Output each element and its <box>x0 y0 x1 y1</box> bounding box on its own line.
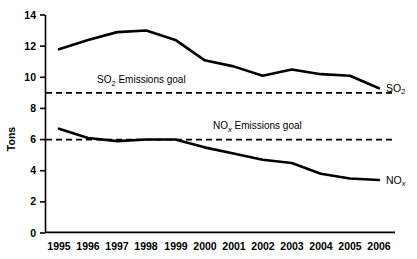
y-tick-label-4: 4 <box>30 164 36 176</box>
so2-goal-label-main: SO <box>97 74 112 85</box>
chart-canvas: 0 2 4 6 8 10 12 14 Tons 1995 1996 1997 1… <box>0 0 417 259</box>
y-tick-label-2: 2 <box>30 195 36 207</box>
x-tick-label-2003: 2003 <box>280 240 304 252</box>
y-tick-label-14: 14 <box>24 9 36 21</box>
x-tick-label-1995: 1995 <box>47 240 71 252</box>
nox-goal-label-main: NO <box>213 120 228 131</box>
x-tick-label-2004: 2004 <box>309 240 333 252</box>
x-tick-label-1996: 1996 <box>76 240 100 252</box>
x-tick-label-1998: 1998 <box>134 240 158 252</box>
x-tick-label-2006: 2006 <box>367 240 391 252</box>
y-tick-label-6: 6 <box>30 133 36 145</box>
nox-goal-label-rest: Emissions goal <box>232 120 302 131</box>
y-axis-title: Tons <box>5 127 17 151</box>
y-tick-label-8: 8 <box>30 102 36 114</box>
so2-goal-label-rest: Emissions goal <box>116 74 186 85</box>
so2-end-main: SO <box>386 82 401 94</box>
x-tick-label-1999: 1999 <box>164 240 188 252</box>
x-tick-label-2001: 2001 <box>222 240 246 252</box>
so2-end-sub: 2 <box>401 87 405 96</box>
y-tick-label-0: 0 <box>30 227 36 239</box>
x-tick-label-2002: 2002 <box>251 240 275 252</box>
x-tick-label-2005: 2005 <box>338 240 362 252</box>
nox-end-sub: x <box>401 179 406 188</box>
x-tick-label-1997: 1997 <box>105 240 129 252</box>
y-tick-label-10: 10 <box>24 71 36 83</box>
x-tick-label-2000: 2000 <box>193 240 217 252</box>
emissions-line-chart: 0 2 4 6 8 10 12 14 Tons 1995 1996 1997 1… <box>0 0 417 259</box>
nox-end-main: NO <box>386 174 402 186</box>
y-tick-label-12: 12 <box>24 40 36 52</box>
